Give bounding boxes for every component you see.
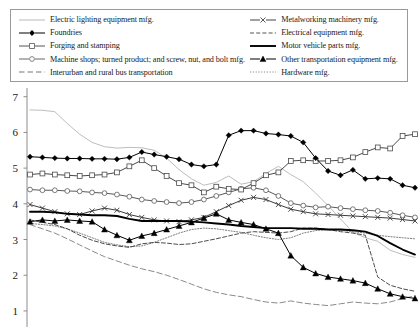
legend-label: Motor vehicle parts mfg. bbox=[281, 41, 360, 50]
legend-item: Electrical equipment mfg. bbox=[248, 26, 407, 39]
series-interurban-and-rural-bus-transportation bbox=[30, 225, 415, 306]
legend-item: Metalworking machinery mfg. bbox=[248, 13, 407, 26]
series-foundries bbox=[27, 128, 417, 191]
series-motor-vehicle-parts-mfg bbox=[30, 212, 415, 255]
chart-canvas bbox=[0, 86, 418, 327]
series-hardware-mfg bbox=[30, 223, 415, 246]
series-forging-and-stamping bbox=[28, 132, 418, 195]
legend-label: Machine shops; turned product; and screw… bbox=[50, 55, 245, 64]
legend-label: Foundries bbox=[50, 28, 82, 37]
legend-item: Machine shops; turned product; and screw… bbox=[17, 53, 248, 66]
legend-label: Metalworking machinery mfg. bbox=[281, 15, 379, 24]
legend-item: Forging and stamping bbox=[17, 39, 248, 52]
legend-swatch-motor-vehicle-parts bbox=[248, 40, 278, 52]
legend-swatch-forging-and-stamping bbox=[17, 40, 47, 52]
legend-swatch-machine-shops bbox=[17, 53, 47, 65]
legend-swatch-hardware bbox=[248, 66, 278, 78]
legend-label: Interurban and rural bus transportation bbox=[50, 68, 173, 77]
legend-label: Hardware mfg. bbox=[281, 68, 329, 77]
legend-item: Other transportation equipment mfg. bbox=[248, 53, 407, 66]
legend-swatch-metalworking-machinery bbox=[248, 14, 278, 26]
legend-swatch-foundries bbox=[17, 27, 47, 39]
legend-swatch-interurban-and-rural-bus bbox=[17, 66, 47, 78]
legend-column-left: Electric lighting equipment mfg. Foundri… bbox=[11, 13, 248, 81]
chart-screenshot: Electric lighting equipment mfg. Foundri… bbox=[0, 0, 418, 327]
legend-item: Foundries bbox=[17, 26, 248, 39]
legend-item: Motor vehicle parts mfg. bbox=[248, 39, 407, 52]
legend-swatch-other-transportation-equipment bbox=[248, 53, 278, 65]
legend-swatch-electrical-equipment bbox=[248, 27, 278, 39]
series-electric-lighting-equipment-mfg bbox=[30, 110, 415, 257]
chart-plot-area: 7654321 bbox=[0, 86, 418, 327]
legend-item: Hardware mfg. bbox=[248, 66, 407, 79]
legend-label: Forging and stamping bbox=[50, 41, 120, 50]
legend-label: Electric lighting equipment mfg. bbox=[50, 15, 154, 24]
legend-label: Electrical equipment mfg. bbox=[281, 28, 364, 37]
legend-item: Electric lighting equipment mfg. bbox=[17, 13, 248, 26]
legend-swatch-electric-lighting-equipment bbox=[17, 14, 47, 26]
legend-item: Interurban and rural bus transportation bbox=[17, 66, 248, 79]
legend-column-right: Metalworking machinery mfg. Electrical e… bbox=[248, 13, 407, 81]
legend-label: Other transportation equipment mfg. bbox=[281, 55, 398, 64]
chart-legend: Electric lighting equipment mfg. Foundri… bbox=[10, 9, 408, 82]
